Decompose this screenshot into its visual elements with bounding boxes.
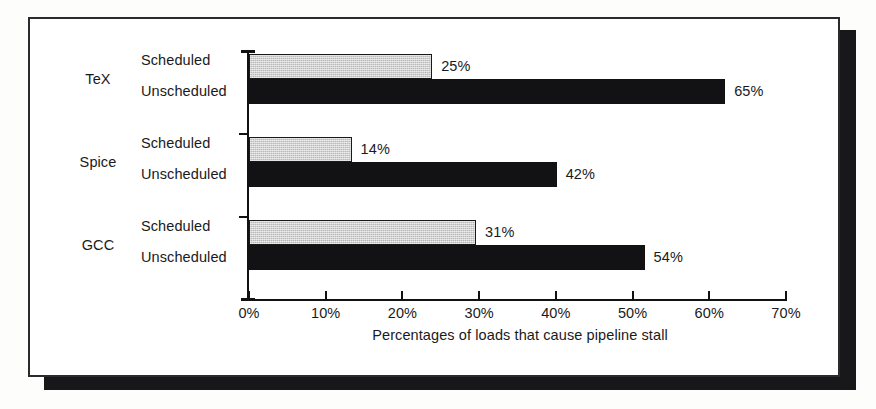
bar-gcc-unscheduled [249,245,645,270]
series-label-scheduled: Scheduled [141,135,210,151]
series-label-scheduled: Scheduled [141,218,210,234]
x-axis-tick [632,291,634,301]
group-label-tex: TeX [85,71,110,87]
bar-value-label: 65% [734,83,763,99]
x-axis-title: Percentages of loads that cause pipeline… [372,327,668,343]
series-label-unscheduled: Unscheduled [141,83,227,99]
y-axis-tick-top [241,50,255,53]
x-axis-tick-label: 30% [464,305,493,321]
group-label-spice: Spice [80,154,117,170]
x-axis-tick-label: 40% [541,305,570,321]
x-axis-tick [325,291,327,301]
bar-chart-plot-area: 0%10%20%30%40%50%60%70% 25%65%14%42%31%5… [30,19,838,375]
series-label-unscheduled: Unscheduled [141,166,227,182]
y-axis-tick-tex-spice [239,133,249,135]
y-axis-tick-spice-gcc [239,216,249,218]
bar-value-label: 42% [566,166,595,182]
x-axis-tick [708,291,710,301]
bar-value-label: 14% [361,141,390,157]
bar-value-label: 25% [441,58,470,74]
x-axis-tick-label: 70% [771,305,800,321]
x-axis-tick-label: 50% [618,305,647,321]
bar-spice-unscheduled [249,162,557,187]
series-label-unscheduled: Unscheduled [141,249,227,265]
x-axis-tick-label: 20% [388,305,417,321]
scanned-page-background: 0%10%20%30%40%50%60%70% 25%65%14%42%31%5… [0,0,876,409]
bar-spice-scheduled [249,137,352,162]
bar-tex-scheduled [249,54,432,79]
bar-gcc-scheduled [249,220,476,245]
bar-value-label: 54% [654,249,683,265]
x-axis-tick [248,291,250,301]
bar-value-label: 31% [485,224,514,240]
figure-frame: 0%10%20%30%40%50%60%70% 25%65%14%42%31%5… [28,17,840,377]
x-axis-tick [478,291,480,301]
bar-tex-unscheduled [249,79,725,104]
x-axis-tick-label: 60% [695,305,724,321]
group-label-gcc: GCC [82,237,115,253]
series-label-scheduled: Scheduled [141,52,210,68]
x-axis-tick [401,291,403,301]
x-axis-line [247,299,787,301]
x-axis-tick-label: 0% [238,305,259,321]
x-axis-tick [555,291,557,301]
x-axis-tick-label: 10% [311,305,340,321]
x-axis-tick [785,291,787,301]
